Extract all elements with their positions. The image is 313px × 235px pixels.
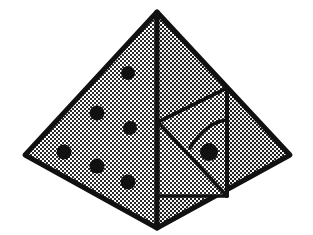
- dot-1: [121, 66, 135, 80]
- pyramid-figure: Pyramid with dotted faces, inner panel, …: [0, 0, 313, 235]
- dot-2: [90, 106, 105, 121]
- figure-root: Pyramid with dotted faces, inner panel, …: [0, 0, 313, 235]
- pupil-dot: [200, 143, 218, 161]
- dot-6: [121, 175, 136, 190]
- dot-4: [57, 145, 72, 160]
- dot-3: [123, 121, 137, 135]
- dot-5: [90, 159, 105, 174]
